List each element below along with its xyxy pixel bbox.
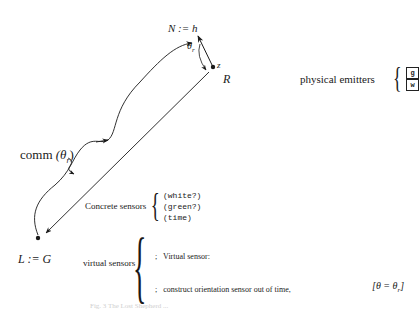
goal-point [36, 236, 40, 240]
sensor-green: (green?) [163, 201, 201, 212]
concrete-sensors-brace: { [151, 188, 160, 222]
angle-label: θr [187, 40, 195, 54]
figure-caption: Fig. 3 The Lost Shepherd ... [90, 302, 168, 310]
equation-label: [θ = θr] [372, 280, 404, 294]
code-comment-2: ; construct orientation sensor out of ti… [155, 284, 347, 295]
code-comment-1: ; Virtual sensor: [155, 251, 347, 262]
robot-label: R [223, 72, 230, 87]
sensor-time: (time) [163, 212, 201, 223]
equation-text: [θ = θ [372, 280, 397, 291]
virtual-sensor-code: ; Virtual sensor: ; construct orientatio… [155, 229, 347, 312]
angle-arc [199, 44, 206, 70]
robot-point [211, 65, 215, 69]
angle-subscript: r [192, 46, 195, 54]
comm-label: comm (θr) [20, 147, 74, 165]
sensor-white: (white?) [163, 190, 201, 201]
concrete-sensors-label: Concrete sensors [85, 201, 146, 211]
heading-label: N := h [168, 22, 197, 34]
comm-text: comm [20, 147, 53, 162]
heading-text: N := h [168, 22, 197, 34]
equation-close: ] [400, 280, 404, 291]
comm-arg-close: ) [70, 147, 74, 162]
emitter-w: w [406, 79, 419, 91]
virtual-sensors-brace: { [133, 226, 146, 306]
goal-label: L := G [18, 252, 51, 267]
concrete-sensors-list: (white?) (green?) (time) [163, 190, 201, 223]
comm-arg: (θ [56, 147, 67, 162]
robot-point-label: z [217, 60, 221, 70]
physical-emitters-brace: { [393, 62, 402, 92]
physical-emitters-label: physical emitters [300, 73, 375, 85]
emitter-g: g [406, 67, 419, 79]
virtual-sensors-label: virtual sensors [83, 258, 135, 268]
heading-arrow [198, 36, 213, 67]
